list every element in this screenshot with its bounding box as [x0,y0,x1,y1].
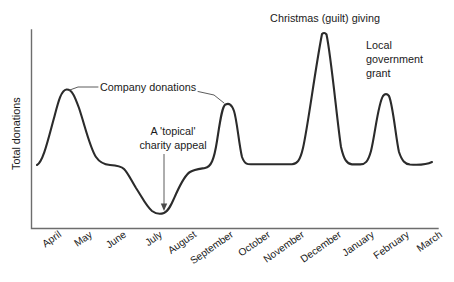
annotation-company-donations: Company donations [100,81,197,93]
x-tick-label-december: December [298,228,343,264]
x-tick-label-january: January [340,228,377,258]
x-axis-tick-labels: April May June July August September Oct… [40,228,444,266]
x-tick-label-april: April [40,229,63,250]
x-tick-label-march: March [415,229,445,254]
company-donations-leader-right [198,92,224,104]
company-donations-leader-left [69,87,99,91]
chart-canvas: Total donations Company donations A 'top… [0,0,454,282]
annotation-grant-line1: Local [366,39,392,51]
x-tick-label-june: June [104,228,129,250]
x-tick-label-may: May [72,228,95,249]
x-tick-label-july: July [143,228,165,248]
x-tick-label-august: August [166,229,198,256]
donations-chart: Total donations Company donations A 'top… [0,0,454,282]
y-axis-title: Total donations [10,97,22,170]
annotation-grant-line3: grant [366,67,391,79]
annotation-topical-line2: charity appeal [139,139,206,151]
topical-arrow-head [161,204,167,212]
annotation-christmas: Christmas (guilt) giving [270,12,380,24]
x-tick-label-february: February [371,228,411,261]
annotation-grant-line2: government [366,53,423,65]
annotation-topical-line1: A 'topical' [151,125,196,137]
